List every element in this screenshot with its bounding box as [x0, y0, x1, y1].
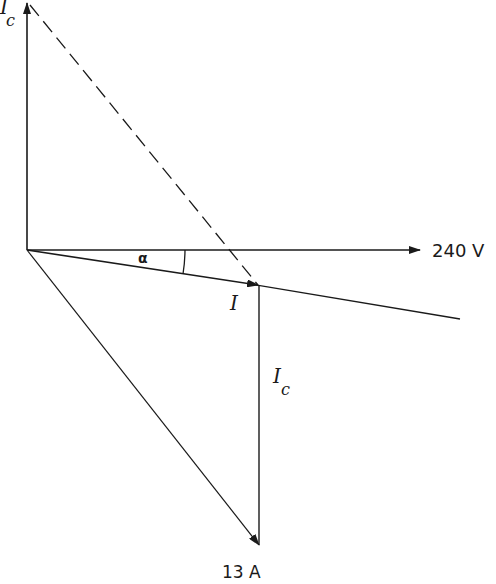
current-i-label: I	[229, 291, 239, 315]
angle-alpha-arc	[183, 250, 185, 274]
phasor-diagram: I c 240 V α I I c 13 A	[0, 0, 496, 584]
current-i-extension	[250, 284, 460, 319]
dashed-construction-line	[30, 5, 258, 285]
ic-right-subscript: c	[281, 380, 290, 399]
voltage-label: 240 V	[432, 240, 485, 261]
total-current-phasor	[27, 250, 259, 545]
angle-alpha-label: α	[138, 250, 148, 266]
ic-top-subscript: c	[6, 11, 15, 30]
total-current-label: 13 A	[222, 562, 261, 582]
